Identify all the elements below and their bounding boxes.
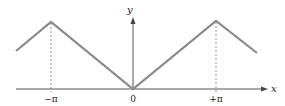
curve bbox=[16, 21, 257, 89]
triangle-wave-chart: x y −π 0 +π bbox=[0, 0, 285, 106]
tick-pos-pi: +π bbox=[209, 94, 223, 104]
y-axis-arrow-icon bbox=[131, 17, 136, 24]
x-axis-label: x bbox=[271, 83, 277, 94]
x-axis-arrow-icon bbox=[261, 87, 268, 92]
y-axis-label: y bbox=[126, 4, 133, 15]
tick-zero: 0 bbox=[130, 94, 136, 104]
tick-neg-pi: −π bbox=[44, 94, 58, 104]
